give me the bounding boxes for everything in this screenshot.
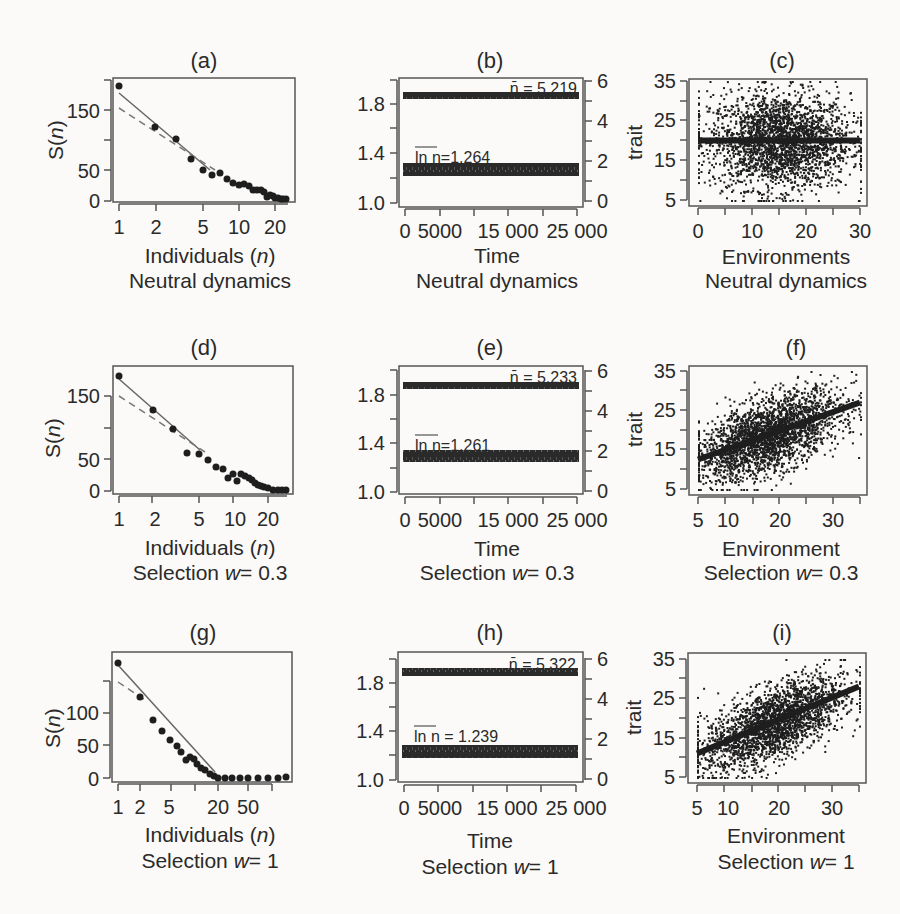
x-tick-label: 15 000 [477,220,538,242]
y-axis-label: trait [622,700,645,735]
x-tick-label: 25 000 [545,797,606,819]
right-y-axis [585,80,592,202]
panel-title: (h) [477,620,504,645]
panel-a: (a) 150 50 0 S(n) 1 2 5 10 20 Individual… [44,48,295,292]
annotation-mean-n: n̄ = 5.219 [510,80,577,97]
x-tick-label: 10 [228,216,250,238]
y-axis [680,371,687,489]
y-tick-label: 1.0 [356,769,384,791]
panel-title: (d) [191,335,218,360]
x-tick-label: 2 [150,216,161,238]
panel-d: (d) 150 50 0 S(n) 1 2 5 10 20 Individual… [41,335,293,584]
fit-line-dashed [119,108,215,170]
x-axis [119,204,288,211]
y-tick-label: 1.0 [357,481,385,503]
right-y-axis [585,658,592,780]
panel-title: (c) [769,48,795,73]
y-tick-label: 1.4 [357,142,385,164]
x-tick-label: 20 [769,509,791,531]
scatter-cloud [698,81,862,202]
y-tick-label: 1.8 [356,672,384,694]
panel-c: (c) 35 25 15 5 trait 0 10 20 30 Environm… [623,48,871,292]
y-tick-label: 35 [654,70,676,92]
panel-subtitle: Selection w= 1 [141,849,278,872]
plot-frame [113,78,295,202]
y-axis [679,659,686,777]
panel-title: (i) [772,620,792,645]
y-tick-label: 1.4 [356,720,384,742]
x-tick-label: 20 [207,796,229,818]
right-tick-label: 4 [597,688,608,710]
y-tick-label: 25 [654,109,676,131]
x-tick-label: 5 [197,216,208,238]
x-tick-label: 5 [193,508,204,530]
panel-b: (b) 1.8 1.4 1.0 6 4 2 0 0 5000 15 000 [357,48,608,292]
right-tick-label: 2 [597,440,608,462]
y-tick-label: 5 [664,766,675,788]
x-axis-label: Individuals (n) [145,823,276,846]
x-tick-label: 1 [112,796,123,818]
y-axis-label: trait [623,412,646,447]
panel-subtitle: Selection w= 0.3 [133,561,288,584]
plot-frame [113,366,293,494]
x-axis [404,785,576,792]
right-tick-label: 0 [597,480,608,502]
y-tick-label: 5 [665,478,676,500]
y-tick-label: 50 [77,735,99,757]
right-tick-label: 4 [597,400,608,422]
y-tick-label: 1.8 [357,93,385,115]
x-tick-label: 5000 [418,797,463,819]
x-tick-label: 30 [821,797,843,819]
panel-title: (a) [191,48,218,73]
panel-h: (h) 1.8 1.4 1.0 6 4 2 0 0 5000 15 000 [356,620,608,878]
x-tick-label: 5 [691,797,702,819]
x-tick-label: 25 000 [546,509,607,531]
panel-e: (e) 1.8 1.4 1.0 6 4 2 0 0 5000 15 000 [357,335,608,584]
x-tick-label: 1 [113,508,124,530]
x-tick-label: 50 [237,796,259,818]
y-tick-label: 1.8 [357,384,385,406]
figure-canvas: (a) 150 50 0 S(n) 1 2 5 10 20 Individual… [0,0,900,914]
y-tick-label: 150 [67,385,100,407]
x-tick-label: 20 [257,508,279,530]
data-points [115,660,290,782]
y-tick-label: 0 [88,768,99,790]
y-tick-label: 25 [653,687,675,709]
y-tick-label: 5 [665,189,676,211]
fit-line-solid [118,665,215,772]
x-tick-label: 10 [741,220,763,242]
annotation-mean-ln-n: ln n = 1.239 [414,728,498,745]
y-axis [104,80,111,201]
x-tick-label: 20 [264,216,286,238]
y-tick-label: 0 [89,190,100,212]
y-tick-label: 50 [78,449,100,471]
panel-title: (f) [786,335,807,360]
x-tick-label: 10 [717,509,739,531]
panel-subtitle: Selection w= 0.3 [704,561,859,584]
panel-f: (f) 35 25 15 5 trait 5 10 20 30 Environm… [623,335,867,584]
right-tick-label: 0 [597,190,608,212]
y-axis [680,81,687,200]
panel-title: (b) [477,48,504,73]
data-points [116,373,290,494]
y-tick-label: 1.4 [357,432,385,454]
x-axis [698,497,860,504]
panel-i: (i) 35 25 15 5 trait 5 10 20 30 Environm… [622,620,866,873]
x-tick-label: 30 [822,509,844,531]
plot-frame [112,652,292,782]
x-tick-label: 25 000 [546,220,607,242]
y-tick-label: 15 [654,438,676,460]
annotation-mean-ln-n: ln n=1.261 [415,437,490,454]
annotation-mean-ln-n: ln n=1.264 [415,149,490,166]
right-tick-label: 0 [597,768,608,790]
y-axis-label: S(n) [44,120,67,160]
x-tick-label: 5000 [418,220,463,242]
right-tick-label: 4 [597,110,608,132]
right-tick-label: 6 [597,648,608,670]
x-axis [405,497,577,504]
y-tick-label: 50 [78,160,100,182]
data-points [116,83,290,203]
right-tick-label: 6 [597,70,608,92]
x-tick-label: 10 [224,508,246,530]
x-tick-label: 1 [113,216,124,238]
